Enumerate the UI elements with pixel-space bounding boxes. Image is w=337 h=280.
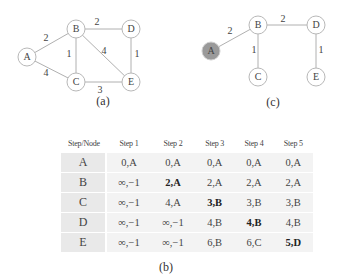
table-cell: ∞,−1 [107, 213, 151, 233]
table-cell: 0,A [274, 153, 313, 173]
header-cell: Step 4 [234, 133, 273, 153]
table-row: C∞,−14,A3,B3,B3,B [61, 193, 313, 213]
header-cell: Step 2 [151, 133, 195, 153]
graph-c-edge-weight: 1 [319, 44, 324, 55]
distance-table: Step/Node Step 1 Step 2 Step 3 Step 4 St… [61, 133, 313, 253]
table-cell: 2,A [234, 173, 273, 193]
graph-c-edge-weight: 1 [252, 44, 257, 55]
table-cell: 4,B [234, 213, 273, 233]
table-cell: 0,A [234, 153, 273, 173]
table-cell: ∞,−1 [107, 173, 151, 193]
row-node-label: B [61, 173, 107, 193]
table-cell: 5,D [274, 233, 313, 253]
table-cell: 2,A [274, 173, 313, 193]
table-row: A0,A0,A0,A0,A0,A [61, 153, 313, 173]
graph-c-node-label: A [207, 45, 215, 56]
graph-c-node-label: D [312, 19, 319, 30]
row-node-label: A [61, 153, 107, 173]
table-cell: 0,A [151, 153, 195, 173]
table-cell: 6,C [234, 233, 273, 253]
table-cell: 0,A [195, 153, 234, 173]
caption-b: (b) [151, 260, 181, 275]
dijkstra-table: Step/Node Step 1 Step 2 Step 3 Step 4 St… [61, 133, 313, 253]
table-cell: 0,A [107, 153, 151, 173]
graph-c-node-label: C [255, 71, 262, 82]
table-cell: 2,A [195, 173, 234, 193]
table-cell: ∞,−1 [151, 213, 195, 233]
table-cell: 2,A [151, 173, 195, 193]
table-cell: 4,B [195, 213, 234, 233]
table-cell: 6,B [195, 233, 234, 253]
row-node-label: D [61, 213, 107, 233]
graph-c-node-label: B [255, 19, 262, 30]
table-cell: 3,B [234, 193, 273, 213]
graph-c-edge-weight: 2 [228, 25, 233, 36]
table-cell: ∞,−1 [151, 233, 195, 253]
row-node-label: C [61, 193, 107, 213]
caption-c: (c) [258, 95, 288, 110]
table-row: E∞,−1∞,−16,B6,C5,D [61, 233, 313, 253]
table-cell: 4,A [151, 193, 195, 213]
table-cell: 3,B [195, 193, 234, 213]
table-header-row: Step/Node Step 1 Step 2 Step 3 Step 4 St… [61, 133, 313, 153]
graph-c-node-label: E [313, 71, 319, 82]
header-cell: Step 5 [274, 133, 313, 153]
table-row: D∞,−1∞,−14,B4,B4,B [61, 213, 313, 233]
graph-c-edge-weight: 2 [281, 13, 286, 24]
table-row: B∞,−12,A2,A2,A2,A [61, 173, 313, 193]
header-cell: Step/Node [61, 133, 107, 153]
header-cell: Step 3 [195, 133, 234, 153]
table-cell: ∞,−1 [107, 193, 151, 213]
row-node-label: E [61, 233, 107, 253]
table-cell: 3,B [274, 193, 313, 213]
table-cell: ∞,−1 [107, 233, 151, 253]
table-cell: 4,B [274, 213, 313, 233]
header-cell: Step 1 [107, 133, 151, 153]
